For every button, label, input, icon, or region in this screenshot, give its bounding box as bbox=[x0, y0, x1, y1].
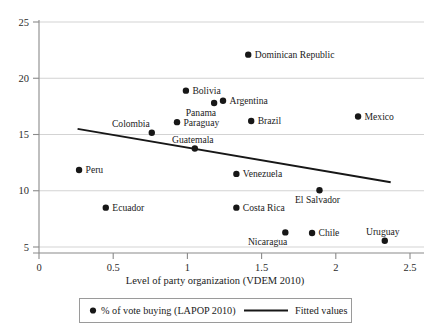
data-point-brazil bbox=[248, 118, 254, 124]
y-tick-label: 20 bbox=[19, 73, 30, 84]
x-tick-label: 0.5 bbox=[107, 262, 120, 273]
x-tick-label: 1.5 bbox=[255, 262, 268, 273]
data-point-labels: Dominican RepublicBoliviaArgentinaPanama… bbox=[86, 49, 400, 247]
gridlines bbox=[39, 22, 424, 247]
data-point-peru bbox=[76, 167, 82, 173]
data-point-dominican-republic bbox=[245, 51, 251, 57]
point-label-bolivia: Bolivia bbox=[192, 85, 221, 96]
data-point-venezuela bbox=[233, 171, 239, 177]
point-label-argentina: Argentina bbox=[230, 95, 269, 106]
data-point-el-salvador bbox=[316, 187, 322, 193]
x-tick-label: 1 bbox=[185, 262, 190, 273]
point-label-peru: Peru bbox=[86, 164, 104, 175]
y-tick-label: 15 bbox=[19, 129, 30, 140]
data-point-mexico bbox=[355, 113, 361, 119]
point-label-costa-rica: Costa Rica bbox=[243, 202, 286, 213]
y-tick-labels: 252015105 bbox=[19, 17, 30, 253]
legend-fit-label: Fitted values bbox=[295, 305, 347, 316]
x-tick-labels: 00.511.522.5 bbox=[36, 262, 416, 273]
point-label-brazil: Brazil bbox=[258, 115, 282, 126]
y-tick-label: 5 bbox=[24, 242, 29, 253]
point-label-colombia: Colombia bbox=[112, 118, 151, 129]
legend: % of vote buying (LAPOP 2010) Fitted val… bbox=[80, 299, 352, 323]
point-label-dominican-republic: Dominican Republic bbox=[255, 49, 335, 60]
point-label-uruguay: Uruguay bbox=[366, 226, 400, 237]
point-label-venezuela: Venezuela bbox=[243, 168, 283, 179]
point-label-ecuador: Ecuador bbox=[112, 202, 145, 213]
y-tick-label: 25 bbox=[19, 17, 30, 28]
data-point-bolivia bbox=[183, 87, 189, 93]
plot-svg: 252015105 00.511.522.5 Dominican Republi… bbox=[0, 0, 430, 333]
legend-scatter-label: % of vote buying (LAPOP 2010) bbox=[101, 305, 236, 317]
axes bbox=[33, 20, 424, 259]
x-tick-label: 2.5 bbox=[403, 262, 416, 273]
point-label-paraguay: Paraguay bbox=[184, 117, 220, 128]
data-point-argentina bbox=[220, 98, 226, 104]
point-label-nicaragua: Nicaragua bbox=[248, 236, 288, 247]
data-point-paraguay bbox=[174, 119, 180, 125]
x-tick-label: 2 bbox=[333, 262, 338, 273]
data-point-panama bbox=[211, 100, 217, 106]
data-point-uruguay bbox=[382, 238, 388, 244]
data-point-colombia bbox=[149, 130, 155, 136]
point-label-guatemala: Guatemala bbox=[172, 134, 214, 145]
data-point-costa-rica bbox=[233, 204, 239, 210]
y-tick-label: 10 bbox=[19, 185, 30, 196]
data-point-ecuador bbox=[103, 204, 109, 210]
data-markers bbox=[76, 51, 388, 244]
point-label-mexico: Mexico bbox=[365, 111, 395, 122]
scatter-chart: 252015105 00.511.522.5 Dominican Republi… bbox=[0, 0, 430, 333]
data-point-nicaragua bbox=[282, 229, 288, 235]
data-point-guatemala bbox=[192, 145, 198, 151]
x-axis-title: Level of party organization (VDEM 2010) bbox=[126, 275, 305, 287]
x-tick-label: 0 bbox=[36, 262, 41, 273]
point-label-chile: Chile bbox=[319, 227, 340, 238]
legend-scatter-marker bbox=[90, 307, 96, 313]
point-label-el-salvador: El Salvador bbox=[295, 194, 341, 205]
data-point-chile bbox=[309, 230, 315, 236]
